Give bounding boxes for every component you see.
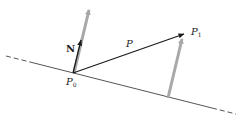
point-p0-label: P0 — [66, 77, 77, 88]
normal-label: N — [66, 44, 75, 54]
normal-gray-arrow — [74, 10, 89, 73]
point-p1-letter: P — [191, 26, 198, 37]
projection-gray-arrow — [168, 39, 182, 98]
point-p0-subscript: 0 — [73, 81, 77, 88]
point-p1-label: P1 — [191, 27, 202, 38]
vector-p-label: P — [126, 39, 133, 49]
diagram-canvas — [0, 0, 239, 121]
point-p1-subscript: 1 — [198, 31, 202, 38]
plane-line — [6, 56, 236, 114]
point-p0-letter: P — [66, 76, 73, 87]
